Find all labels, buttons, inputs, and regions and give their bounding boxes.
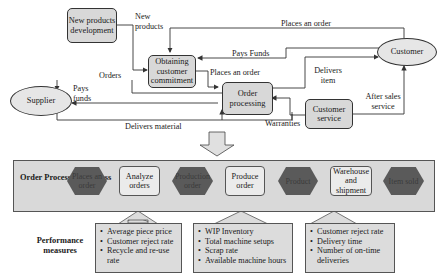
pm-title-text: Performance measures xyxy=(36,236,84,256)
edge-label-delivers-item: Delivers item xyxy=(312,66,344,85)
activity-analyze-orders: Analyze orders xyxy=(119,166,160,196)
edge-label-places-order-top: Places an order xyxy=(281,19,331,29)
edge-label-places-order-mid: Places an order xyxy=(210,68,260,78)
measure-item: WIP Inventory xyxy=(198,227,288,237)
measure-item: Delivery time xyxy=(310,237,390,247)
customer-service-box: Customer service xyxy=(305,99,353,129)
activity-warehouse-shipment: Warehouse and shipment xyxy=(330,166,372,196)
obtaining-customer-commitment-box: Obtaining customer commitment xyxy=(148,55,196,88)
node-label: Obtaining customer commitment xyxy=(149,57,195,86)
edge-label-warranties: Warranties xyxy=(265,119,300,129)
step-label: Places an order xyxy=(67,172,107,190)
edge-label-after-sales-service: After sales service xyxy=(362,92,404,111)
event-product: Product xyxy=(278,167,318,195)
order-processing-box: Order processing xyxy=(222,82,273,115)
event-item-sold: Item sold xyxy=(383,167,424,195)
customer-ellipse: Customer xyxy=(377,38,437,66)
step-label: Analyze orders xyxy=(120,172,159,191)
flow-down-arrow xyxy=(200,132,234,156)
node-label: Customer xyxy=(391,47,424,57)
node-label: Supplier xyxy=(27,96,55,106)
event-production-order: Production order xyxy=(172,167,213,195)
measure-item: Number of on-time deliveries xyxy=(310,246,390,265)
measure-item: Customer reject rate xyxy=(310,227,390,237)
supplier-ellipse: Supplier xyxy=(10,86,72,116)
edge-label-pays-funds-customer: Pays Funds xyxy=(232,49,270,59)
edge-label-pays-funds-supplier: Pays funds xyxy=(73,84,101,103)
performance-measures-title: Performance measures xyxy=(36,236,84,256)
step-label: Produce order xyxy=(226,172,264,191)
measures-produce-order: WIP Inventory Total machine setups Scrap… xyxy=(193,223,293,273)
step-label: Production order xyxy=(172,172,213,190)
event-places-order: Places an order xyxy=(67,167,107,195)
measure-item: Scrap rate xyxy=(198,246,288,256)
node-label: Order processing xyxy=(223,89,272,108)
node-label: Customer service xyxy=(306,105,352,124)
edge-label-orders: Orders xyxy=(99,71,121,81)
step-label: Product xyxy=(286,177,311,186)
measure-item: Available machine hours xyxy=(198,256,288,266)
edge-label-new-products: New products xyxy=(135,12,175,31)
edge-label-delivers-material: Delivers material xyxy=(125,122,182,132)
activity-produce-order: Produce order xyxy=(225,166,265,196)
measure-item: Recycle and re-use rate xyxy=(100,246,177,265)
step-label: Warehouse and shipment xyxy=(331,167,371,195)
measures-warehouse-shipment: Customer reject rate Delivery time Numbe… xyxy=(305,223,395,273)
node-label: New products development xyxy=(68,16,116,35)
measure-item: Total machine setups xyxy=(198,237,288,247)
step-label: Item sold xyxy=(389,177,419,186)
new-products-development-box: New products development xyxy=(67,8,117,43)
measure-item: Customer reject rate xyxy=(100,237,177,247)
measures-analyze-orders: Average piece price Customer reject rate… xyxy=(95,223,182,273)
measure-item: Average piece price xyxy=(100,227,177,237)
